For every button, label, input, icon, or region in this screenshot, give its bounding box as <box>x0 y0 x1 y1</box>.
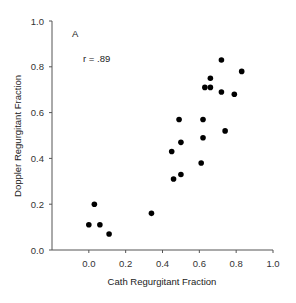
data-point <box>239 69 245 75</box>
x-tick-label: 0.2 <box>119 258 132 269</box>
scatter-chart: 0.00.20.40.60.81.00.00.20.40.60.81.0 A r… <box>0 0 296 303</box>
data-point <box>106 231 112 237</box>
panel-label: A <box>72 28 79 39</box>
data-point <box>198 160 204 166</box>
correlation-annotation: r = .89 <box>83 53 110 64</box>
data-point <box>178 140 184 146</box>
x-tick-label: 0.0 <box>82 258 95 269</box>
data-point <box>202 85 208 91</box>
y-tick-label: 0.8 <box>31 61 44 72</box>
y-tick-label: 1.0 <box>31 16 44 27</box>
x-tick-label: 0.4 <box>156 258 169 269</box>
data-point <box>176 117 182 123</box>
data-point <box>92 201 98 207</box>
data-point <box>149 211 155 217</box>
data-point <box>200 117 206 123</box>
data-point <box>171 176 177 182</box>
axes: 0.00.20.40.60.81.00.00.20.40.60.81.0 <box>31 16 280 270</box>
y-tick-label: 0.6 <box>31 107 44 118</box>
x-tick-label: 1.0 <box>266 258 279 269</box>
x-tick-label: 0.6 <box>193 258 206 269</box>
data-point <box>219 89 225 95</box>
data-point <box>222 128 228 134</box>
data-point <box>86 222 92 228</box>
data-point <box>169 149 175 155</box>
data-point <box>178 172 184 178</box>
data-point <box>97 222 103 228</box>
y-tick-label: 0.2 <box>31 199 44 210</box>
y-tick-label: 0.0 <box>31 245 44 256</box>
data-points <box>86 57 244 237</box>
x-tick-label: 0.8 <box>230 258 243 269</box>
data-point <box>232 91 238 97</box>
data-point <box>219 57 225 63</box>
data-point <box>208 85 214 91</box>
y-tick-label: 0.4 <box>31 153 44 164</box>
x-axis-label: Cath Regurgitant Fraction <box>108 276 217 287</box>
data-point <box>200 135 206 141</box>
y-axis-label: Doppler Regurgitant Fraction <box>12 75 23 197</box>
data-point <box>208 75 214 81</box>
